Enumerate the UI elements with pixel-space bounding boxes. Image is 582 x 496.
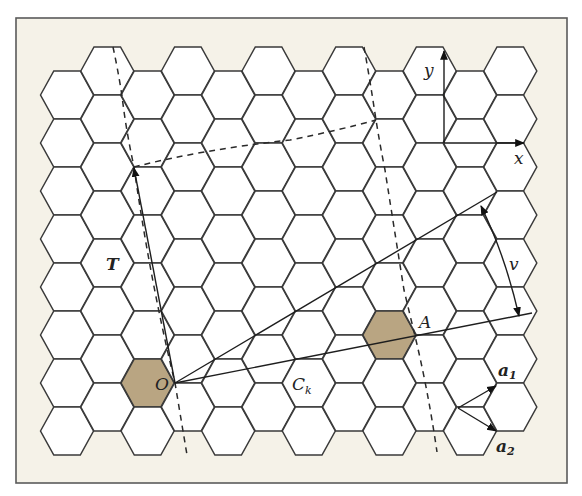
label-x-axis: x [514,148,524,168]
label-a2-subscript: 2 [506,445,515,458]
hex-grid [41,47,537,455]
label-point-A: A [417,312,431,332]
label-a2-base: a [496,436,507,456]
label-k-subscript: k [305,384,312,397]
label-y-axis: y [423,60,434,80]
label-C: C [292,374,305,394]
label-a1-base: a [498,360,509,380]
label-T: T [106,254,120,274]
label-angle-v: v [509,254,519,274]
label-a1-subscript: 1 [509,369,517,382]
hex-lattice-diagram: O A T Ck v x y a1 a2 [0,0,582,496]
label-origin-O: O [155,374,169,394]
